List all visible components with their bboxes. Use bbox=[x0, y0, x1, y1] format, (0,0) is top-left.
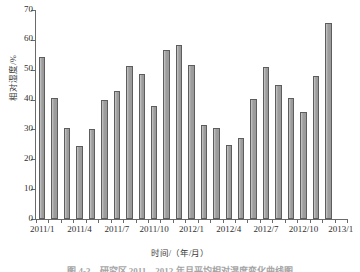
bar bbox=[300, 112, 306, 219]
bar-series bbox=[36, 10, 347, 219]
bar bbox=[151, 106, 157, 219]
x-tick-mark bbox=[48, 219, 49, 223]
y-tick-label: 0 bbox=[29, 213, 34, 223]
bar bbox=[275, 85, 281, 219]
bar bbox=[76, 146, 82, 219]
x-tick-mark bbox=[173, 219, 174, 223]
x-tick-mark bbox=[272, 219, 273, 223]
y-tick-label: 40 bbox=[24, 93, 33, 103]
x-tick-label: 2011/10 bbox=[140, 224, 169, 234]
bar bbox=[139, 74, 145, 219]
bar bbox=[288, 98, 294, 219]
y-tick-label: 30 bbox=[24, 123, 33, 133]
x-axis-title: 时间/（年/月） bbox=[0, 246, 360, 258]
x-tick-mark bbox=[86, 219, 87, 223]
bar bbox=[313, 76, 319, 219]
x-tick-mark bbox=[136, 219, 137, 223]
bar bbox=[126, 66, 132, 219]
bar bbox=[163, 50, 169, 219]
bar bbox=[39, 57, 45, 219]
bar bbox=[89, 129, 95, 219]
x-tick-mark bbox=[235, 219, 236, 223]
bar bbox=[238, 138, 244, 219]
x-tick-mark bbox=[247, 219, 248, 223]
x-tick-mark bbox=[111, 219, 112, 223]
bar bbox=[114, 91, 120, 219]
x-tick-mark bbox=[198, 219, 199, 223]
x-tick-mark bbox=[123, 219, 124, 223]
bar bbox=[176, 45, 182, 219]
x-tick-mark bbox=[73, 219, 74, 223]
x-tick-mark bbox=[98, 219, 99, 223]
bar bbox=[51, 98, 57, 219]
x-tick-mark bbox=[185, 219, 186, 223]
x-tick-mark bbox=[36, 219, 37, 223]
y-tick-label: 70 bbox=[24, 4, 33, 14]
x-tick-label: 2012/1 bbox=[179, 224, 204, 234]
figure-container: 相对湿度/% 010203040506070 2011/12011/42011/… bbox=[0, 0, 360, 272]
x-tick-label: 2011/7 bbox=[105, 224, 130, 234]
bar bbox=[213, 128, 219, 219]
x-tick-label: 2011/1 bbox=[30, 224, 55, 234]
x-tick-mark bbox=[297, 219, 298, 223]
x-tick-mark bbox=[322, 219, 323, 223]
x-tick-mark bbox=[260, 219, 261, 223]
x-tick-mark bbox=[285, 219, 286, 223]
x-tick-mark bbox=[310, 219, 311, 223]
bar bbox=[325, 23, 331, 219]
x-tick-label: 2012/10 bbox=[289, 224, 319, 234]
y-axis-title: 相对湿度/% bbox=[6, 38, 18, 118]
x-tick-mark bbox=[223, 219, 224, 223]
bar bbox=[64, 128, 70, 219]
x-tick-mark bbox=[148, 219, 149, 223]
x-tick-label: 2012/4 bbox=[216, 224, 241, 234]
bar bbox=[226, 145, 232, 219]
x-tick-label: 2011/4 bbox=[67, 224, 92, 234]
y-tick-label: 50 bbox=[24, 63, 33, 73]
bar bbox=[101, 100, 107, 219]
x-tick-mark bbox=[335, 219, 336, 223]
y-tick-label: 10 bbox=[24, 183, 33, 193]
x-tick-label: 2012/7 bbox=[254, 224, 279, 234]
x-tick-label: 2013/1 bbox=[328, 224, 353, 234]
x-tick-mark bbox=[160, 219, 161, 223]
bar bbox=[188, 65, 194, 219]
plot-area: 010203040506070 2011/12011/42011/72011/1… bbox=[35, 10, 347, 220]
bar bbox=[201, 125, 207, 219]
x-tick-mark bbox=[347, 219, 348, 223]
bar bbox=[250, 99, 256, 219]
bar bbox=[263, 67, 269, 219]
x-tick-mark bbox=[210, 219, 211, 223]
x-tick-mark bbox=[61, 219, 62, 223]
figure-caption: 图 4-3 研究区 2011—2012 年月平均相对湿度变化曲线图 bbox=[0, 264, 360, 272]
y-tick-label: 20 bbox=[24, 153, 33, 163]
y-tick-label: 60 bbox=[24, 33, 33, 43]
